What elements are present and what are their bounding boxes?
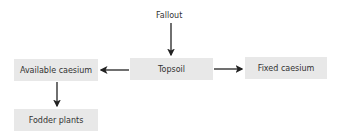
topsoil-node: Topsoil bbox=[130, 58, 213, 80]
fodder-plants-node: Fodder plants bbox=[14, 109, 98, 131]
fixed-caesium-node: Fixed caesium bbox=[245, 57, 327, 79]
available-caesium-node: Available caesium bbox=[14, 59, 98, 81]
fallout-label: Fallout bbox=[156, 11, 182, 20]
